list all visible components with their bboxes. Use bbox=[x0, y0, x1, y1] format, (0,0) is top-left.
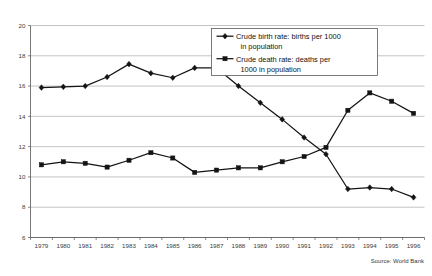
x-tick-label: 1992 bbox=[319, 242, 333, 249]
square-marker-icon bbox=[214, 168, 218, 172]
x-tick-label: 1981 bbox=[78, 242, 92, 249]
y-tick-label: 12 bbox=[19, 143, 26, 150]
chart-screenshot: 68101214161820 1979198019811982198319841… bbox=[0, 0, 432, 276]
legend-label-line2: in population bbox=[241, 42, 283, 51]
square-marker-icon bbox=[149, 151, 153, 155]
square-marker-icon bbox=[193, 170, 197, 174]
x-tick-label: 1988 bbox=[232, 242, 246, 249]
x-tick-label: 1994 bbox=[363, 242, 377, 249]
x-tick-label: 1987 bbox=[210, 242, 224, 249]
x-tick-label: 1986 bbox=[188, 242, 202, 249]
x-tick-label: 1984 bbox=[144, 242, 158, 249]
x-tick-label: 1979 bbox=[35, 242, 49, 249]
legend-label-line1: Crude death rate: deaths per bbox=[236, 55, 331, 64]
square-marker-icon bbox=[223, 57, 227, 61]
x-tick-label: 1993 bbox=[341, 242, 355, 249]
x-tick-label: 1985 bbox=[166, 242, 180, 249]
x-tick-label: 1983 bbox=[122, 242, 136, 249]
y-tick-label: 10 bbox=[19, 173, 26, 180]
y-tick-label: 18 bbox=[19, 52, 26, 59]
y-tick-label: 14 bbox=[19, 113, 26, 120]
square-marker-icon bbox=[171, 156, 175, 160]
square-marker-icon bbox=[411, 111, 415, 115]
y-tick-label: 20 bbox=[19, 22, 26, 29]
square-marker-icon bbox=[302, 154, 306, 158]
x-tick-label: 1995 bbox=[385, 242, 399, 249]
square-marker-icon bbox=[346, 108, 350, 112]
square-marker-icon bbox=[127, 158, 131, 162]
line-chart: 68101214161820 1979198019811982198319841… bbox=[0, 0, 432, 276]
square-marker-icon bbox=[61, 160, 65, 164]
square-marker-icon bbox=[39, 163, 43, 167]
square-marker-icon bbox=[324, 145, 328, 149]
square-marker-icon bbox=[236, 166, 240, 170]
x-tick-label: 1990 bbox=[275, 242, 289, 249]
square-marker-icon bbox=[390, 99, 394, 103]
x-tick-label: 1989 bbox=[253, 242, 267, 249]
square-marker-icon bbox=[368, 91, 372, 95]
x-tick-label: 1980 bbox=[56, 242, 70, 249]
y-tick-label: 16 bbox=[19, 82, 26, 89]
legend-label-line2: 1000 in population bbox=[241, 65, 301, 74]
square-marker-icon bbox=[83, 161, 87, 165]
source-attribution: Source: World Bank bbox=[371, 258, 425, 264]
x-tick-label: 1982 bbox=[100, 242, 114, 249]
chart-legend[interactable]: Crude birth rate: births per 1000in popu… bbox=[212, 29, 378, 76]
square-marker-icon bbox=[105, 165, 109, 169]
square-marker-icon bbox=[280, 160, 284, 164]
x-tick-label: 1991 bbox=[297, 242, 311, 249]
y-tick-label: 8 bbox=[22, 203, 26, 210]
x-tick-label: 1996 bbox=[407, 242, 421, 249]
y-tick-label: 6 bbox=[22, 234, 26, 241]
legend-label-line1: Crude birth rate: births per 1000 bbox=[236, 32, 341, 41]
square-marker-icon bbox=[258, 166, 262, 170]
